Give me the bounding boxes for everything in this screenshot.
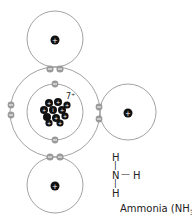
- svg-text:+: +: [47, 120, 51, 126]
- svg-text:I: I: [52, 107, 53, 113]
- svg-text:+: +: [58, 120, 62, 126]
- formula-bond-top: |: [114, 161, 117, 170]
- formula-bond-right: —: [121, 169, 130, 179]
- svg-text:+: +: [52, 37, 58, 45]
- formula-h-right: H: [133, 170, 141, 181]
- svg-text:+: +: [125, 110, 131, 118]
- svg-text:+: +: [63, 113, 67, 119]
- caption-subscript: 3: [190, 209, 192, 217]
- formula-bond-bottom: |: [114, 179, 117, 188]
- nitrogen-nucleus: ++ +I+ + ++ ++: [40, 98, 71, 127]
- svg-text:+: +: [56, 99, 60, 105]
- svg-text:+: +: [52, 183, 58, 191]
- ammonia-diagram: + + + ++ +I+ + ++ ++ 7⁺: [0, 0, 192, 220]
- caption: Ammonia (NH3).: [120, 203, 192, 217]
- caption-text: Ammonia (NH: [120, 203, 190, 214]
- svg-text:+: +: [65, 102, 69, 108]
- svg-text:+: +: [42, 107, 46, 113]
- nucleus-charge-label: 7⁺: [66, 92, 75, 101]
- formula-h-bottom: H: [112, 188, 120, 199]
- structural-formula: H | N — H | H: [110, 152, 150, 200]
- svg-text:+: +: [47, 100, 51, 106]
